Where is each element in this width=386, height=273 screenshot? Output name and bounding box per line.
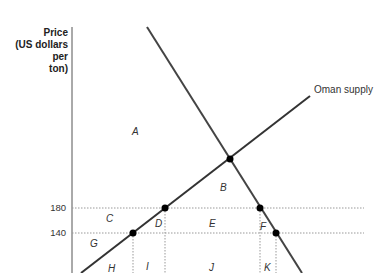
region-c: C: [106, 213, 113, 224]
y-axis-label-line: per: [0, 51, 68, 63]
demand-point-140: [273, 230, 280, 237]
y-axis-label-line: Price: [0, 27, 68, 39]
supply-point-140: [130, 230, 137, 237]
supply-point-180: [162, 205, 169, 212]
region-e: E: [209, 218, 216, 229]
equilibrium-point: [227, 156, 234, 163]
y-tick-140: 140: [36, 227, 66, 238]
y-axis-label: Price (US dollars per ton): [0, 27, 68, 75]
supply-curve-label: Oman supply: [314, 84, 373, 95]
region-g: G: [90, 238, 98, 249]
supply-demand-diagram: Price (US dollars per ton) 180 140 Oman …: [0, 0, 386, 273]
region-h: H: [108, 263, 115, 273]
y-axis-label-line: ton): [0, 63, 68, 75]
region-j: J: [209, 262, 214, 273]
demand-curve: [147, 27, 302, 273]
region-a: A: [132, 126, 139, 137]
region-f: F: [260, 221, 266, 232]
region-i: I: [146, 261, 149, 272]
y-axis-label-line: (US dollars: [0, 39, 68, 51]
y-tick-180: 180: [36, 202, 66, 213]
region-b: B: [220, 182, 227, 193]
region-k: K: [264, 262, 271, 273]
demand-point-180: [257, 205, 264, 212]
region-d: D: [155, 218, 162, 229]
